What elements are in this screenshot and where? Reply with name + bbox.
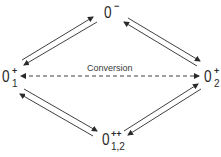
node-top-sup: − [114,2,119,11]
node-right-base: 0 [204,68,212,85]
node-left-sup: + [12,67,17,76]
node-left-sub: 1 [12,79,18,89]
arrow-right-to-bottom [128,89,201,135]
node-top: 0 − [104,4,113,21]
node-left: 0 + 1 [2,68,11,85]
node-bottom: 0 ++ 1,2 [102,131,111,148]
arrow-bottom-to-right [124,84,198,131]
conversion-arrowhead-left [20,73,26,79]
arrow-top-to-left [24,22,97,65]
arrow-top-to-right [128,18,200,61]
arrow-bottom-to-left [20,94,93,136]
node-right: 0 + 2 [204,68,213,85]
node-bottom-base: 0 [102,131,110,148]
node-left-base: 0 [2,68,10,85]
node-top-base: 0 [104,4,112,21]
node-right-sub: 2 [214,79,220,89]
conversion-label: Conversion [87,63,133,73]
node-bottom-sup: ++ [111,130,122,139]
node-right-sup: + [214,67,219,76]
arrow-left-to-bottom [24,89,97,131]
arrow-right-to-top [124,22,197,66]
node-bottom-sub: 1,2 [111,142,125,152]
arrow-left-to-top [22,17,93,60]
